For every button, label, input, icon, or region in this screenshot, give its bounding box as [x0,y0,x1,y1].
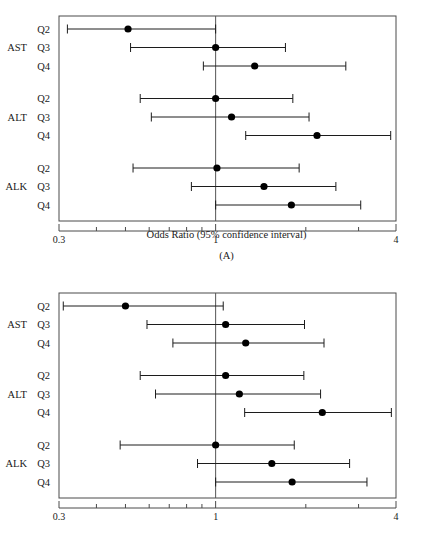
x-axis-title-a: Odds Ratio (95% confidence interval) [14,229,425,240]
x-axis-tick-label: 0.3 [53,511,66,522]
row-label-quartile: Q3 [37,181,50,192]
forest-row [173,339,324,348]
x-axis-tick-label: 1 [213,511,218,522]
group-label-alt: ALT [8,389,28,400]
row-label-quartile: Q3 [37,458,50,469]
odds-ratio-point [236,390,243,397]
group-label-ast: AST [7,319,27,330]
odds-ratio-point [122,302,129,309]
row-label-quartile: Q2 [37,440,50,451]
forest-chart-a: Q2Q3Q4Q2Q3Q4Q2Q3Q4ASTALTALK0.314 [0,0,425,245]
row-label-quartile: Q2 [37,93,50,104]
group-label-alk: ALK [5,181,27,192]
odds-ratio-point [212,95,219,102]
odds-ratio-point [212,44,219,51]
row-label-quartile: Q4 [37,130,51,141]
row-label-quartile: Q3 [37,389,50,400]
forest-plot-panel-a: Q2Q3Q4Q2Q3Q4Q2Q3Q4ASTALTALK0.314 Odds Ra… [0,0,425,278]
row-label-quartile: Q3 [37,319,50,330]
row-label-quartile: Q4 [37,61,51,72]
forest-row [67,25,215,34]
odds-ratio-point [251,62,258,69]
group-label-ast: AST [7,42,27,53]
odds-ratio-point [242,339,249,346]
plot-area-a: Q2Q3Q4Q2Q3Q4Q2Q3Q4ASTALTALK0.314 [0,0,425,245]
forest-row [203,62,345,71]
panel-caption-a: (A) [14,250,425,261]
row-label-quartile: Q2 [37,24,50,35]
odds-ratio-point [213,164,220,171]
odds-ratio-point [212,441,219,448]
forest-plot-panel-b: Q2Q3Q4Q2Q3Q4Q2Q3Q4ASTALTALK0.314 Odds Ra… [0,277,425,555]
odds-ratio-point [228,113,235,120]
plot-area-b: Q2Q3Q4Q2Q3Q4Q2Q3Q4ASTALTALK0.314 [0,277,425,522]
row-label-quartile: Q4 [37,338,51,349]
group-label-alk: ALK [5,458,27,469]
row-label-quartile: Q2 [37,163,50,174]
odds-ratio-point [319,409,326,416]
forest-row [216,478,367,487]
row-label-quartile: Q4 [37,477,51,488]
odds-ratio-point [124,25,131,32]
odds-ratio-point [288,201,295,208]
forest-row [147,320,305,329]
forest-row [216,201,361,210]
row-label-quartile: Q4 [37,200,51,211]
forest-row [191,182,335,191]
odds-ratio-point [313,132,320,139]
odds-ratio-point [222,321,229,328]
group-label-alt: ALT [8,112,28,123]
forest-row [131,43,286,52]
odds-ratio-point [289,478,296,485]
forest-row [140,94,293,103]
forest-row [133,164,299,173]
row-label-quartile: Q3 [37,112,50,123]
forest-row [245,408,392,417]
forest-row [151,113,309,122]
row-label-quartile: Q3 [37,42,50,53]
odds-ratio-point [222,372,229,379]
row-label-quartile: Q2 [37,301,50,312]
row-label-quartile: Q4 [37,407,51,418]
forest-row [120,441,294,450]
forest-chart-b: Q2Q3Q4Q2Q3Q4Q2Q3Q4ASTALTALK0.314 [0,277,425,522]
plot-frame [59,16,396,221]
forest-row [140,371,304,380]
forest-row [246,131,391,140]
odds-ratio-point [260,183,267,190]
forest-row [156,390,321,399]
row-label-quartile: Q2 [37,370,50,381]
odds-ratio-point [268,460,275,467]
forest-row [63,302,223,311]
forest-row [198,459,350,468]
x-axis-tick-label: 4 [394,511,399,522]
